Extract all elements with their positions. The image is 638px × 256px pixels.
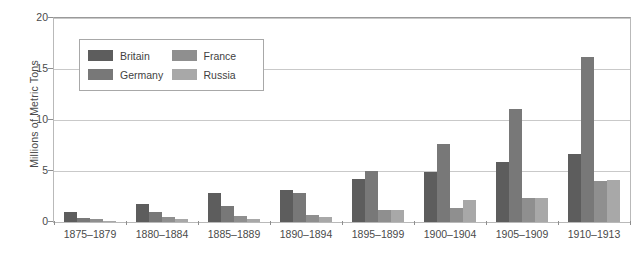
bar-germany-1895–1899: [365, 171, 378, 222]
legend-item-france[interactable]: France: [172, 50, 256, 62]
legend-swatch-russia: [172, 69, 197, 80]
bar-france-1910–1913: [594, 181, 607, 222]
x-tick-mark: [198, 221, 199, 225]
bar-britain-1880–1884: [136, 204, 149, 222]
steel-production-bar-chart: Millions of Metric Tons 05101520 1875–18…: [0, 0, 638, 256]
x-tick-label-1890–1894: 1890–1894: [270, 228, 342, 240]
y-tick-label-5: 5: [4, 165, 48, 176]
bar-russia-1875–1879: [103, 221, 116, 222]
x-tick-label-1875–1879: 1875–1879: [54, 228, 126, 240]
legend-swatch-germany: [88, 69, 113, 80]
y-tick-label-20: 20: [4, 12, 48, 23]
x-tick-mark: [342, 221, 343, 225]
bar-group: [486, 18, 558, 222]
legend-label-france: France: [204, 50, 237, 62]
x-tick-label-1885–1889: 1885–1889: [198, 228, 270, 240]
x-tick-mark: [630, 221, 631, 225]
bar-germany-1885–1889: [221, 206, 234, 222]
bar-germany-1890–1894: [293, 193, 306, 222]
chart-legend: BritainFranceGermanyRussia: [79, 39, 264, 91]
bar-germany-1910–1913: [581, 57, 594, 222]
legend-label-germany: Germany: [120, 69, 163, 81]
bar-russia-1900–1904: [463, 200, 476, 222]
x-tick-mark: [54, 221, 55, 225]
x-tick-label-1905–1909: 1905–1909: [486, 228, 558, 240]
bar-russia-1910–1913: [607, 180, 620, 222]
x-tick-mark: [414, 221, 415, 225]
legend-item-russia[interactable]: Russia: [172, 69, 256, 81]
x-tick-mark: [558, 221, 559, 225]
legend-label-russia: Russia: [204, 69, 236, 81]
bar-france-1885–1889: [234, 216, 247, 222]
bar-france-1895–1899: [378, 210, 391, 222]
x-tick-label-1880–1884: 1880–1884: [126, 228, 198, 240]
bar-britain-1900–1904: [424, 172, 437, 222]
bar-russia-1890–1894: [319, 217, 332, 222]
y-tick-label-10: 10: [4, 114, 48, 125]
bar-france-1875–1879: [90, 219, 103, 222]
bar-germany-1875–1879: [77, 218, 90, 222]
y-tick-label-15: 15: [4, 63, 48, 74]
bar-britain-1890–1894: [280, 190, 293, 222]
bar-britain-1910–1913: [568, 154, 581, 222]
bar-france-1880–1884: [162, 217, 175, 222]
y-axis-ticks: 05101520: [0, 17, 48, 223]
bar-britain-1895–1899: [352, 179, 365, 222]
y-tick-label-0: 0: [4, 216, 48, 227]
bar-group: [342, 18, 414, 222]
bar-germany-1900–1904: [437, 144, 450, 222]
bar-group: [558, 18, 630, 222]
bar-germany-1880–1884: [149, 212, 162, 222]
x-tick-mark: [126, 221, 127, 225]
x-tick-label-1910–1913: 1910–1913: [558, 228, 630, 240]
x-tick-mark: [486, 221, 487, 225]
bar-russia-1885–1889: [247, 219, 260, 222]
legend-swatch-france: [172, 50, 197, 61]
x-tick-label-1895–1899: 1895–1899: [342, 228, 414, 240]
bar-britain-1905–1909: [496, 162, 509, 222]
bar-france-1905–1909: [522, 198, 535, 222]
bar-group: [270, 18, 342, 222]
legend-label-britain: Britain: [120, 50, 150, 62]
legend-swatch-britain: [88, 50, 113, 61]
legend-item-britain[interactable]: Britain: [88, 50, 172, 62]
bar-france-1890–1894: [306, 215, 319, 222]
legend-item-germany[interactable]: Germany: [88, 69, 172, 81]
bar-russia-1880–1884: [175, 219, 188, 222]
x-tick-mark: [270, 221, 271, 225]
bar-france-1900–1904: [450, 208, 463, 222]
bar-group: [414, 18, 486, 222]
bar-russia-1905–1909: [535, 198, 548, 222]
bar-germany-1905–1909: [509, 109, 522, 222]
bar-britain-1875–1879: [64, 212, 77, 222]
x-tick-label-1900–1904: 1900–1904: [414, 228, 486, 240]
x-axis-labels: 1875–18791880–18841885–18891890–18941895…: [54, 228, 630, 246]
bar-russia-1895–1899: [391, 210, 404, 222]
bar-britain-1885–1889: [208, 193, 221, 222]
